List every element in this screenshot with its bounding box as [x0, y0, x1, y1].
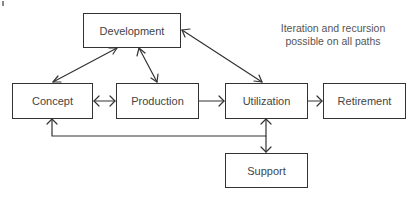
node-label: Utilization: [243, 95, 291, 107]
node-label: Concept: [32, 95, 73, 107]
iteration-note: Iteration and recursion possible on all …: [258, 22, 408, 48]
edge-concept-development: [53, 48, 117, 82]
node-label: Development: [100, 25, 165, 37]
node-production: Production: [116, 83, 199, 119]
node-concept: Concept: [12, 83, 93, 119]
edge-production-utilization: [199, 96, 224, 106]
node-retirement: Retirement: [323, 83, 406, 119]
node-label: Support: [247, 165, 286, 177]
node-support: Support: [225, 153, 308, 188]
edge-development-utilization: [182, 29, 262, 82]
node-utilization: Utilization: [225, 83, 308, 119]
edge-feedback-concept: [47, 119, 266, 136]
note-line-2: possible on all paths: [258, 35, 408, 48]
note-line-1: Iteration and recursion: [258, 22, 408, 35]
edge-concept-production: [94, 96, 115, 106]
edge-utilization-retirement: [308, 96, 322, 106]
node-development: Development: [83, 13, 181, 48]
node-label: Production: [131, 95, 184, 107]
node-label: Retirement: [338, 95, 392, 107]
edge-development-production: [137, 48, 158, 82]
